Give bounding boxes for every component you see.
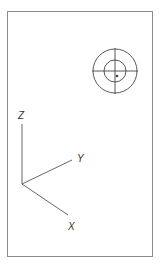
y-axis-label: Y (77, 153, 85, 164)
target-reticle-icon[interactable] (92, 48, 138, 94)
y-axis-line (22, 160, 72, 184)
x-axis-line (22, 184, 68, 215)
scene-overlay: Z Y X (0, 0, 162, 271)
x-axis-label: X (67, 221, 75, 232)
reticle-marker-dot (116, 75, 119, 78)
z-axis-label: Z (17, 110, 25, 121)
axis-triad (22, 124, 72, 215)
